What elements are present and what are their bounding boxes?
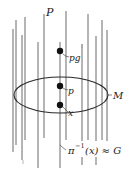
diagram-canvas: P pg p x M π −1 (x) ≈ G [0, 0, 131, 175]
label-p: p [68, 86, 74, 96]
principal-bundle-diagram: P pg p x M π −1 (x) ≈ G [0, 0, 131, 175]
caption-sup: −1 [75, 142, 85, 150]
caption-pi: π [67, 145, 75, 156]
point-x [57, 102, 63, 108]
label-x: x [68, 108, 73, 118]
point-pg [57, 48, 63, 54]
leader-fiber [60, 145, 66, 150]
label-P: P [45, 6, 54, 19]
fiber-caption: π −1 (x) ≈ G [66, 141, 128, 157]
caption-arg: (x) ≈ G [85, 145, 121, 156]
label-pg: pg [69, 53, 81, 63]
label-M: M [112, 90, 124, 101]
point-p [57, 83, 63, 89]
